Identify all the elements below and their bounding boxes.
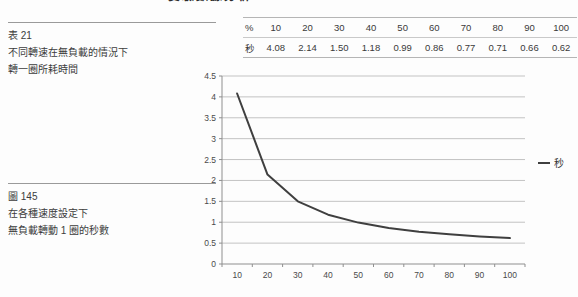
x-axis-tick-label: 50	[354, 270, 364, 280]
table-row-seconds: 秒 4.082.141.501.180.990.860.770.710.660.…	[243, 38, 577, 57]
y-axis-tick-label: 1.5	[204, 196, 216, 206]
table-cell: 20	[292, 22, 324, 33]
chart-legend: 秒	[538, 157, 564, 169]
table-cell: 60	[419, 22, 451, 33]
table-cell: 40	[355, 22, 387, 33]
y-axis-tick-label: 2	[211, 175, 216, 185]
x-axis-tick-label: 70	[414, 270, 424, 280]
page-header-clipped: 實驗數據分析	[168, 0, 252, 3]
chart-axes	[219, 76, 525, 267]
table-cell: 80	[482, 22, 514, 33]
table-cell: 2.14	[292, 42, 324, 53]
x-axis-tick-label: 80	[445, 270, 455, 280]
x-axis-tick-label: 40	[323, 270, 333, 280]
chart-x-axis-labels: 102030405060708090100	[232, 270, 517, 280]
legend-label: 秒	[554, 157, 564, 169]
line-chart-svg: 00.511.522.533.544.5 1020304050607080901…	[195, 70, 578, 288]
chart-area: 00.511.522.533.544.5 1020304050607080901…	[195, 70, 578, 288]
chart-gridlines	[222, 76, 525, 243]
table-caption-label: 表 21	[8, 27, 216, 44]
y-axis-tick-label: 0	[211, 259, 216, 269]
chart-y-axis-labels: 00.511.522.533.544.5	[204, 71, 216, 269]
speed-seconds-table: % 102030405060708090100 秒 4.082.141.501.…	[243, 17, 577, 58]
table-caption-line1: 不同轉速在無負載的情況下	[8, 44, 216, 61]
document-page: { "page_header": { "clipped_title": "實驗數…	[0, 0, 578, 297]
row-header-seconds: 秒	[243, 41, 260, 55]
y-axis-tick-label: 3	[211, 134, 216, 144]
y-axis-tick-label: 4	[211, 92, 216, 102]
table-caption-line2: 轉一圈所耗時間	[8, 61, 216, 78]
x-axis-tick-label: 90	[475, 270, 485, 280]
table-cell: 0.62	[545, 42, 577, 53]
table-cell: 100	[545, 22, 577, 33]
y-axis-tick-label: 0.5	[204, 238, 216, 248]
table-row-percent: % 102030405060708090100	[243, 18, 577, 38]
table-cell: 0.86	[419, 42, 451, 53]
x-axis-tick-label: 10	[232, 270, 242, 280]
table-cell: 0.77	[450, 42, 482, 53]
x-axis-tick-label: 60	[384, 270, 394, 280]
y-axis-tick-label: 2.5	[204, 155, 216, 165]
table-cell: 0.66	[514, 42, 546, 53]
figure-caption-line2: 無負載轉動 1 圈的秒數	[8, 222, 216, 239]
y-axis-tick-label: 3.5	[204, 113, 216, 123]
table-cell: 0.71	[482, 42, 514, 53]
table-cell: 30	[323, 22, 355, 33]
figure-caption-block: 圖 145 在各種速度設定下 無負載轉動 1 圈的秒數	[8, 183, 216, 239]
x-axis-tick-label: 100	[503, 270, 517, 280]
table-cell: 1.18	[355, 42, 387, 53]
x-axis-tick-label: 30	[293, 270, 303, 280]
y-axis-tick-label: 1	[211, 217, 216, 227]
table-cell: 10	[260, 22, 292, 33]
table-cell: 90	[514, 22, 546, 33]
figure-caption-line1: 在各種速度設定下	[8, 205, 216, 222]
table-caption-block: 表 21 不同轉速在無負載的情況下 轉一圈所耗時間	[8, 22, 216, 78]
table-cell: 70	[450, 22, 482, 33]
table-cell: 4.08	[260, 42, 292, 53]
table-cell: 0.99	[387, 42, 419, 53]
figure-caption-label: 圖 145	[8, 188, 216, 205]
table-cell: 50	[387, 22, 419, 33]
x-axis-tick-label: 20	[263, 270, 273, 280]
table-cell: 1.50	[323, 42, 355, 53]
y-axis-tick-label: 4.5	[204, 71, 216, 81]
row-header-percent: %	[243, 22, 260, 33]
series-line-seconds	[237, 94, 510, 239]
